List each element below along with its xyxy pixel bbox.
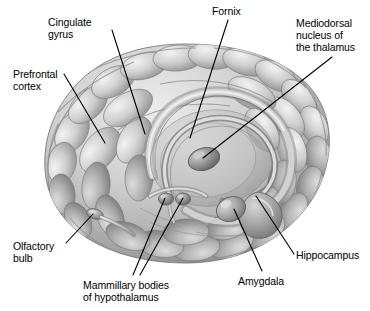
label-line: bulb bbox=[13, 252, 54, 264]
leader-prefrontal-cortex bbox=[64, 74, 105, 143]
label-line: Amygdala bbox=[238, 275, 284, 287]
label-line: Hippocampus bbox=[296, 249, 359, 261]
label-line: cortex bbox=[13, 80, 58, 92]
label-line: Prefrontal bbox=[13, 68, 58, 80]
label-line: Cingulate bbox=[48, 16, 91, 28]
leader-amygdala bbox=[234, 209, 262, 271]
leader-mediodorsal-thalamus bbox=[203, 57, 332, 158]
label-hippocampus: Hippocampus bbox=[296, 249, 359, 261]
leader-cingulate-gyrus bbox=[112, 30, 145, 134]
brain-anatomy-figure: CingulategyrusPrefrontalcortexFornixMedi… bbox=[0, 0, 370, 311]
label-prefrontal-cortex: Prefrontalcortex bbox=[13, 68, 58, 92]
leader-hippocampus bbox=[256, 196, 294, 254]
label-line: nucleus of bbox=[296, 29, 355, 41]
label-line: the thalamus bbox=[296, 41, 355, 53]
leader-mammillary-left bbox=[133, 198, 165, 275]
leader-olfactory-bulb bbox=[66, 214, 93, 243]
label-mediodorsal-nucleus-of-the-thalamus: Mediodorsalnucleus ofthe thalamus bbox=[296, 17, 355, 53]
label-line: Mediodorsal bbox=[296, 17, 355, 29]
label-line: Fornix bbox=[212, 5, 241, 17]
label-olfactory-bulb: Olfactorybulb bbox=[13, 240, 54, 264]
label-amygdala: Amygdala bbox=[238, 275, 284, 287]
label-line: Olfactory bbox=[13, 240, 54, 252]
label-fornix: Fornix bbox=[212, 5, 241, 17]
label-cingulate-gyrus: Cingulategyrus bbox=[48, 16, 91, 40]
leader-mammillary-right bbox=[140, 198, 183, 275]
label-line: gyrus bbox=[48, 28, 91, 40]
label-mammillary-bodies-of-hypothalamus: Mammillary bodiesof hypothalamus bbox=[83, 279, 169, 303]
label-line: of hypothalamus bbox=[83, 291, 169, 303]
label-line: Mammillary bodies bbox=[83, 279, 169, 291]
leader-fornix bbox=[190, 20, 228, 138]
